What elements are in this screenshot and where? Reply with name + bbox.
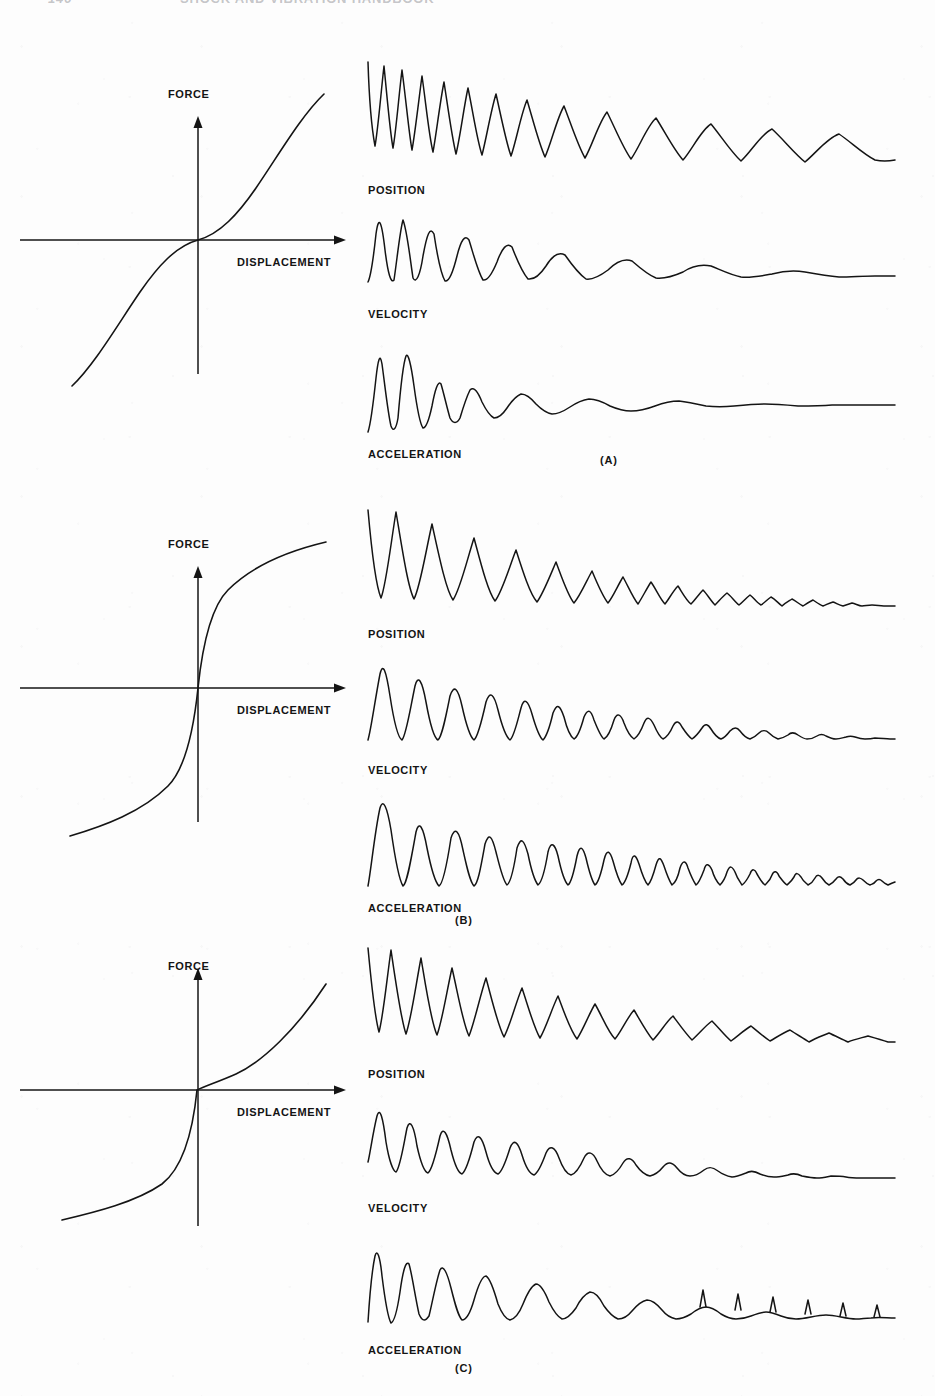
x-axis-arrowhead [334,1086,346,1095]
axis-label-displacement: DISPLACEMENT [237,1106,331,1118]
waveform-acceleration-b [368,804,895,886]
waveform-position-b [368,510,895,606]
x-axis-arrowhead [334,684,346,693]
trace-label-position-b: POSITION [368,628,425,640]
running-head: 146 SHOCK AND VIBRATION HANDBOOK [0,0,935,9]
trace-label-velocity-a: VELOCITY [368,308,428,320]
panel-c-position-trace: POSITION [368,948,895,1080]
axis-label-displacement: DISPLACEMENT [237,256,331,268]
waveform-velocity-c [368,1112,895,1178]
waveform-position-c [368,948,895,1042]
waveform-acceleration-a [368,355,895,432]
panel-a-position-trace: POSITION [368,62,895,196]
y-axis-arrowhead [194,116,203,128]
panel-b: FORCE DISPLACEMENT POSITION VELOCITY ACC… [0,486,935,926]
panel-caption-a: (A) [600,454,618,466]
panel-b-velocity-trace: VELOCITY [368,669,895,776]
panel-c-graphics: FORCE DISPLACEMENT POSITION VELOCITY ACC… [0,926,935,1376]
waveform-acceleration-c-spikes [700,1290,880,1317]
panel-b-force-chart: FORCE DISPLACEMENT [20,538,346,836]
axis-label-force: FORCE [168,88,210,100]
x-axis-arrowhead [334,236,346,245]
panel-caption-b: (B) [455,914,473,926]
running-head-title: SHOCK AND VIBRATION HANDBOOK [180,0,434,6]
axis-label-displacement: DISPLACEMENT [237,704,331,716]
trace-label-acceleration-c: ACCELERATION [368,1344,462,1356]
figure-sheet: FORCE DISPLACEMENT POSITION VELOCITY ACC… [0,0,935,1396]
waveform-velocity-a [368,220,895,282]
waveform-acceleration-c [368,1253,895,1323]
waveform-velocity-b [368,669,895,740]
panel-c-acceleration-trace: ACCELERATION [368,1253,895,1356]
y-axis-arrowhead [194,566,203,578]
panel-b-position-trace: POSITION [368,510,895,640]
trace-label-acceleration-a: ACCELERATION [368,448,462,460]
panel-a-velocity-trace: VELOCITY [368,220,895,320]
panel-caption-c: (C) [455,1362,473,1374]
trace-label-position-c: POSITION [368,1068,425,1080]
force-displacement-curve-c [62,984,326,1220]
panel-c-velocity-trace: VELOCITY [368,1112,895,1214]
trace-label-velocity-c: VELOCITY [368,1202,428,1214]
panel-a-force-chart: FORCE DISPLACEMENT [20,88,346,386]
trace-label-position-a: POSITION [368,184,425,196]
panel-c-force-chart: FORCE DISPLACEMENT [20,960,346,1226]
panel-b-graphics: FORCE DISPLACEMENT POSITION VELOCITY ACC… [0,486,935,926]
panel-c: FORCE DISPLACEMENT POSITION VELOCITY ACC… [0,926,935,1376]
panel-a-graphics: FORCE DISPLACEMENT POSITION VELOCITY ACC… [0,34,935,474]
trace-label-acceleration-b: ACCELERATION [368,902,462,914]
panel-a: FORCE DISPLACEMENT POSITION VELOCITY ACC… [0,34,935,474]
page-folio: 146 [48,0,72,6]
panel-a-acceleration-trace: ACCELERATION [368,355,895,460]
panel-b-acceleration-trace: ACCELERATION [368,804,895,914]
waveform-position-a [368,62,895,162]
axis-label-force: FORCE [168,960,210,972]
axis-label-force: FORCE [168,538,210,550]
trace-label-velocity-b: VELOCITY [368,764,428,776]
